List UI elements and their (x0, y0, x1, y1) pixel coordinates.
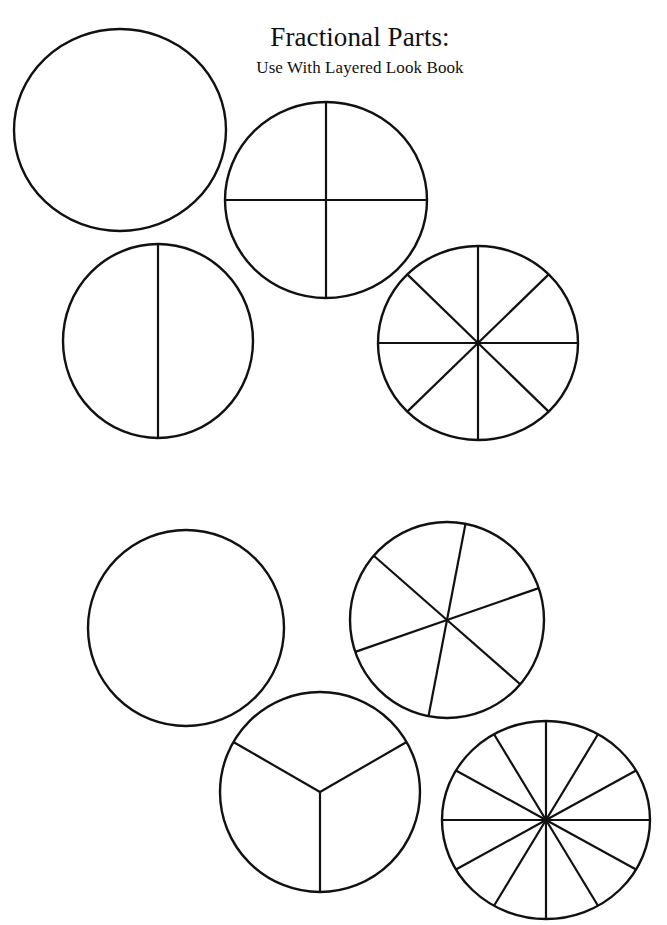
sector-divider (546, 820, 598, 906)
worksheet-page: Fractional Parts: Use With Layered Look … (0, 0, 667, 925)
sector-divider (546, 771, 636, 821)
sector-divider (407, 274, 478, 343)
sector-divider (428, 620, 447, 716)
thirds-circle (220, 692, 420, 892)
sector-divider (447, 620, 520, 684)
sector-divider (546, 734, 598, 820)
sector-divider (447, 524, 466, 620)
sector-divider (494, 734, 546, 820)
whole-circle (14, 29, 226, 231)
sector-divider (355, 620, 447, 652)
fourths-circle (225, 102, 427, 298)
sector-divider (407, 343, 478, 412)
sector-divider (456, 820, 546, 870)
sector-divider (478, 274, 549, 343)
circle-outline (14, 29, 226, 231)
sector-divider (456, 771, 546, 821)
sector-divider (233, 742, 320, 792)
fraction-circles-group (14, 29, 650, 919)
sector-divider (494, 820, 546, 906)
halves-circle (63, 244, 253, 438)
sector-divider (374, 556, 447, 620)
sixths-circle (350, 522, 544, 718)
sector-divider (447, 588, 539, 620)
fraction-circles-canvas (0, 0, 667, 925)
twelfths-circle (442, 721, 650, 919)
whole-circle (88, 530, 284, 726)
circle-outline (88, 530, 284, 726)
sector-divider (546, 820, 636, 870)
sector-divider (478, 343, 549, 412)
sector-divider (320, 742, 407, 792)
eighths-circle (378, 246, 578, 440)
